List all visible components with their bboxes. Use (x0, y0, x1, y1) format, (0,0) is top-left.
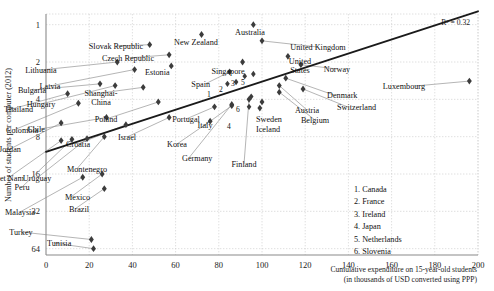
legend-entry: 6. Slovenia (354, 247, 391, 256)
legend-entry: 1. Canada (354, 185, 387, 194)
point-label: Czech Republic (102, 54, 154, 63)
point-label: UnitedStates (289, 57, 311, 75)
legend-entry: 5. Netherlands (354, 235, 402, 244)
point-label: Denmark (327, 91, 358, 100)
data-point-marker (98, 80, 103, 87)
data-point-marker (167, 114, 172, 121)
data-point-marker (277, 82, 282, 89)
data-point-marker (76, 100, 81, 107)
point-label: Israel (118, 133, 137, 142)
point-label: Belgium (301, 116, 330, 125)
data-point-marker (257, 105, 262, 112)
point-label: Brazil (69, 205, 90, 214)
data-point-marker (141, 84, 146, 91)
data-point-marker (199, 31, 204, 38)
point-label: Italy (197, 121, 213, 130)
x-axis-title-line2: (in thousands of USD converted using PPP… (344, 275, 478, 284)
point-label: Switzerland (337, 103, 376, 112)
point-label: Lithuania (25, 66, 57, 75)
point-label: Mexico (65, 193, 90, 202)
x-tick-label: 40 (128, 260, 137, 270)
y-tick-label: 1 (36, 20, 40, 30)
point-label: Norway (324, 65, 351, 74)
point-label: Peru (14, 183, 29, 192)
data-point-marker (65, 90, 70, 97)
point-label: Estonia (145, 68, 170, 77)
legend-entry: 4. Japan (354, 222, 381, 231)
point-label: Hungary (27, 100, 57, 109)
x-tick-label: 120 (299, 260, 312, 270)
data-point-marker (102, 185, 107, 192)
data-point-marker (91, 245, 96, 252)
x-tick-label: 100 (256, 260, 269, 270)
data-point-marker (80, 174, 85, 181)
y-tick-label: 64 (32, 244, 41, 254)
data-point-marker (283, 75, 288, 82)
data-point-marker (212, 103, 217, 110)
point-label: Uruguay (23, 174, 53, 183)
legend-entry: 3. Ireland (354, 210, 385, 219)
x-tick-label: 20 (85, 260, 94, 270)
label-leader-line (244, 99, 249, 164)
label-leader-line (50, 70, 135, 86)
data-point-marker (59, 137, 64, 144)
data-point-marker (229, 102, 234, 109)
point-label: Tunisia (47, 239, 72, 248)
point-label: Turkey (9, 228, 33, 237)
data-point-marker (240, 59, 245, 66)
x-tick-label: 60 (171, 260, 180, 270)
point-label: Sweden (256, 115, 282, 124)
data-point-marker (169, 63, 174, 70)
x-axis-title-line1: Cumulative expenditure on 15-year-old st… (330, 265, 477, 274)
data-point-marker (132, 66, 137, 73)
chart-root: 1248163264 020406080100120140160180200 V… (0, 0, 494, 291)
numbered-point-label: 2 (219, 85, 223, 94)
numbered-point-label: 6 (236, 105, 240, 114)
numbered-point-marker (251, 71, 256, 77)
point-label: Malaysia (5, 208, 35, 217)
numbered-point-label: 5 (241, 78, 245, 87)
point-label: Chile (27, 125, 45, 134)
numbered-point-marker (247, 104, 252, 110)
data-point-marker (113, 82, 118, 89)
point-label: Austria (295, 106, 319, 115)
x-tick-label: 0 (44, 260, 48, 270)
legend: 1. Canada2. France3. Ireland4. Japan5. N… (354, 185, 402, 256)
point-label: Montenegro (67, 165, 107, 174)
point-label: Latvia (40, 82, 61, 91)
point-label: Portugal (172, 115, 200, 124)
point-label: Finland (231, 160, 256, 169)
data-point-marker (467, 78, 472, 85)
point-label: Spain (191, 80, 210, 89)
numbered-point-labels: 123456 (207, 78, 245, 131)
point-label: Australia (235, 28, 265, 37)
point-label: Korea (167, 140, 187, 149)
numbered-point-label: 4 (227, 122, 231, 131)
y-tick-labels: 1248163264 (32, 20, 41, 254)
point-label: Slovak Republic (89, 42, 144, 51)
point-label: Luxembourg (383, 82, 425, 91)
r-squared-annotation: R² = 0.32 (441, 18, 470, 27)
data-point-marker (260, 37, 265, 44)
point-label: Croatia (66, 140, 90, 149)
point-label: Poland (95, 115, 118, 124)
legend-entry: 2. France (354, 197, 385, 206)
numbered-point-label: 1 (207, 90, 211, 99)
y-axis-title: Number of students per computer (2012) (4, 68, 13, 202)
scatter-plot: 1248163264 020406080100120140160180200 V… (0, 0, 494, 291)
numbered-point-label: 3 (231, 79, 235, 88)
data-point-marker (301, 86, 306, 93)
point-label: Singapore (211, 67, 245, 76)
data-point-marker (147, 41, 152, 48)
x-tick-label: 80 (215, 260, 224, 270)
numbered-point-marker (225, 81, 230, 87)
point-label: United Kingdom (290, 43, 346, 52)
point-label: Iceland (256, 125, 280, 134)
point-label: New Zealand (174, 38, 218, 47)
data-point-marker (89, 236, 94, 243)
data-point-marker (277, 89, 282, 96)
point-label: Germany (182, 154, 213, 163)
data-point-marker (167, 51, 172, 58)
